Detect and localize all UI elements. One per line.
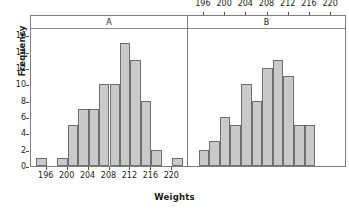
x-tick-label: 216	[301, 0, 316, 8]
y-tick-mark	[26, 69, 29, 70]
x-tick-label: 216	[143, 172, 158, 180]
panel-b-bars	[188, 29, 345, 166]
histogram-bar	[305, 125, 316, 166]
x-tick-label: 208	[101, 172, 116, 180]
x-axis-top-labels: 196200204208212216220	[187, 0, 346, 12]
histogram-bar	[36, 158, 46, 166]
panel-b: B	[187, 15, 346, 167]
x-tick-label: 200	[216, 0, 231, 8]
y-tick-mark	[26, 102, 29, 103]
plot-area: A B	[30, 15, 346, 167]
histogram-bar	[151, 150, 161, 166]
histogram-bar	[68, 125, 78, 166]
x-axis-title: Weights	[0, 192, 349, 202]
panel-a-strip: A	[31, 16, 187, 29]
histogram-bar	[172, 158, 182, 166]
x-tick-mark	[129, 167, 130, 170]
histogram-bar	[78, 109, 88, 166]
panel-a-bars	[31, 29, 187, 166]
x-tick-label: 200	[59, 172, 74, 180]
y-tick-mark	[26, 118, 29, 119]
x-tick-mark	[267, 12, 268, 15]
panel-b-label: B	[264, 18, 270, 27]
histogram-bar	[89, 109, 99, 166]
x-tick-mark	[88, 167, 89, 170]
x-tick-mark	[309, 12, 310, 15]
y-tick-label: 16	[16, 32, 26, 40]
x-tick-label: 204	[80, 172, 95, 180]
x-tick-label: 212	[280, 0, 295, 8]
y-tick-mark	[26, 53, 29, 54]
histogram-bar	[220, 117, 231, 166]
histogram-bar	[252, 101, 263, 166]
x-tick-mark	[245, 12, 246, 15]
x-tick-label: 196	[195, 0, 210, 8]
y-tick-label: 10	[16, 81, 26, 89]
histogram-bar	[130, 60, 140, 166]
y-tick-mark	[26, 36, 29, 37]
x-tick-mark	[46, 167, 47, 170]
panel-a-label: A	[106, 18, 111, 27]
x-axis-bottom-labels: 196200204208212216220	[30, 172, 187, 184]
histogram-bar	[99, 84, 109, 166]
x-tick-label: 212	[122, 172, 137, 180]
y-tick-label: 12	[16, 65, 26, 73]
x-tick-mark	[150, 167, 151, 170]
x-tick-label: 220	[322, 0, 337, 8]
histogram-bar	[209, 141, 220, 166]
y-tick-mark	[26, 167, 29, 168]
x-tick-mark	[224, 12, 225, 15]
histogram-bar	[120, 43, 130, 166]
x-tick-mark	[109, 167, 110, 170]
y-tick-label: 14	[16, 49, 26, 57]
histogram-bar	[294, 125, 305, 166]
histogram-bar	[199, 150, 210, 166]
x-tick-label: 196	[38, 172, 53, 180]
panel-b-strip: B	[188, 16, 345, 29]
histogram-figure: Frequency 0246810121416 A B 196200204208…	[0, 0, 349, 212]
histogram-bar	[283, 76, 294, 166]
x-tick-mark	[67, 167, 68, 170]
histogram-bar	[141, 101, 151, 166]
histogram-bar	[262, 68, 273, 166]
x-tick-mark	[203, 12, 204, 15]
x-tick-label: 204	[238, 0, 253, 8]
x-tick-mark	[330, 12, 331, 15]
y-axis-tick-labels: 0246810121416	[0, 0, 26, 212]
histogram-bar	[110, 84, 120, 166]
x-tick-mark	[171, 167, 172, 170]
y-tick-mark	[26, 151, 29, 152]
histogram-bar	[273, 60, 284, 166]
panel-a: A	[30, 15, 187, 167]
y-tick-mark	[26, 134, 29, 135]
histogram-bar	[57, 158, 67, 166]
histogram-bar	[241, 84, 252, 166]
x-tick-mark	[288, 12, 289, 15]
x-tick-label: 220	[164, 172, 179, 180]
histogram-bar	[230, 125, 241, 166]
x-tick-label: 208	[259, 0, 274, 8]
y-tick-mark	[26, 85, 29, 86]
